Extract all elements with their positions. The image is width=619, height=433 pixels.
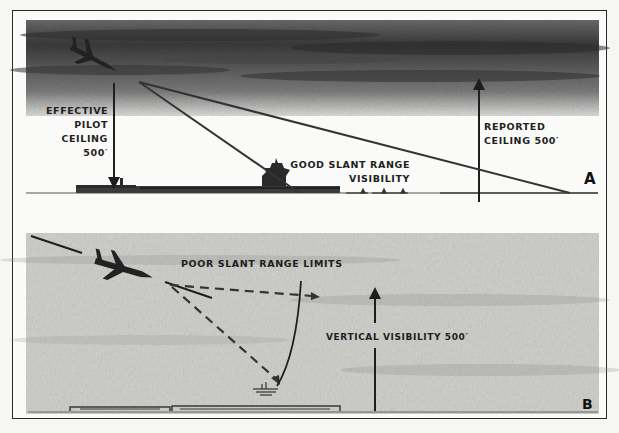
poor-slant-range-label: POOR SLANT RANGE LIMITS [181,257,343,271]
label-line: 500′ [46,146,108,160]
panel-a-letter: A [584,170,596,188]
label-line: CEILING [46,132,108,146]
vertical-visibility-label: VERTICAL VISIBILITY 500′ [326,330,468,344]
label-line: GOOD SLANT RANGE [286,158,410,172]
reported-ceiling-label: REPORTED CEILING 500′ [484,120,559,148]
effective-pilot-ceiling-label: EFFECTIVE PILOT CEILING 500′ [46,104,108,160]
label-line: PILOT [46,118,108,132]
label-line: VISIBILITY [286,172,410,186]
illustration-canvas [0,0,619,433]
label-line: REPORTED [484,120,559,134]
good-slant-range-label: GOOD SLANT RANGE VISIBILITY [286,158,410,186]
label-line: CEILING 500′ [484,134,559,148]
panel-b-letter: B [582,396,593,412]
label-line: EFFECTIVE [46,104,108,118]
